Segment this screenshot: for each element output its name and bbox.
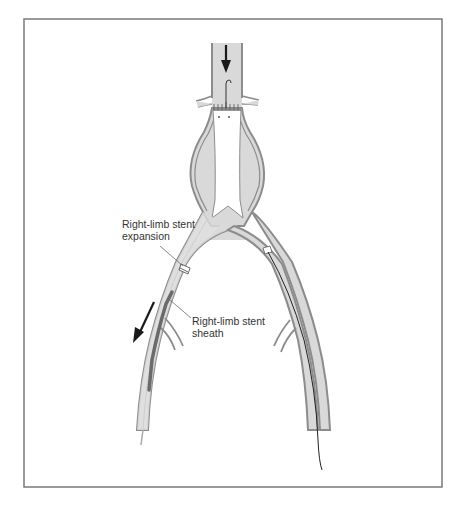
aorta bbox=[191, 43, 265, 226]
sheath-leader-line bbox=[170, 300, 191, 318]
label-line: Right-limb stent bbox=[192, 315, 265, 327]
label-line: sheath bbox=[192, 327, 265, 339]
label-stent-expansion: Right-limb stent expansion bbox=[122, 218, 195, 242]
endograft-deployment-diagram bbox=[0, 0, 461, 507]
label-stent-sheath: Right-limb stent sheath bbox=[192, 315, 265, 339]
label-line: expansion bbox=[122, 230, 195, 242]
label-line: Right-limb stent bbox=[122, 218, 195, 230]
stent-graft-body bbox=[212, 110, 243, 218]
